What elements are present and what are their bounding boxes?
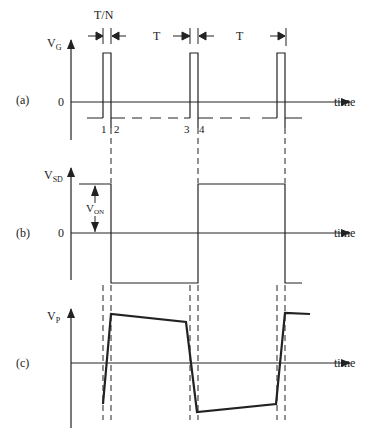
point-4: 4 xyxy=(199,123,205,135)
gate-pulse-1 xyxy=(103,53,111,128)
vg-label: VG xyxy=(47,36,62,52)
panel-b xyxy=(71,168,350,283)
time-label-c: time xyxy=(334,356,355,370)
gate-pulse-3 xyxy=(277,53,285,128)
period-label-2: T xyxy=(236,29,244,43)
point-1: 1 xyxy=(101,123,107,135)
time-label-b: time xyxy=(334,226,355,240)
zero-label-b: 0 xyxy=(58,226,64,240)
gate-pulse-2 xyxy=(190,53,198,128)
time-label-a: time xyxy=(334,95,355,109)
timing-diagram: T/N T T VG (a) 0 time 1 2 3 4 xyxy=(0,0,368,440)
panel-a-tag: (a) xyxy=(16,93,29,107)
guide-lines xyxy=(103,128,285,420)
pulse-width-label: T/N xyxy=(94,8,114,22)
panel-a xyxy=(71,40,350,140)
point-2: 2 xyxy=(114,123,120,135)
point-3: 3 xyxy=(184,123,190,135)
zero-label-a: 0 xyxy=(58,95,64,109)
period-label-1: T xyxy=(153,29,161,43)
dimension-markers xyxy=(88,28,286,46)
panel-c-tag: (c) xyxy=(16,356,29,370)
vsd-label: VSD xyxy=(44,168,63,184)
panel-b-tag: (b) xyxy=(16,226,30,240)
von-label: VON xyxy=(86,202,104,216)
panel-c xyxy=(71,309,350,428)
vp-label: VP xyxy=(47,309,61,325)
